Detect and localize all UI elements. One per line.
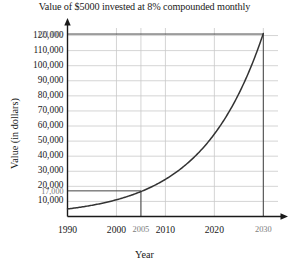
y-tick-label: 110,000 (0, 46, 64, 55)
x-axis-title: Year (0, 249, 289, 260)
axes (64, 18, 288, 220)
y-tick-label: 100,000 (0, 61, 64, 70)
x-tick-label: 1990 (48, 225, 88, 235)
gridlines (68, 28, 279, 217)
y-axis-arrow (64, 18, 70, 26)
y-tick-label: 121,000 (0, 30, 64, 39)
y-tick-label: 10,000 (0, 196, 64, 205)
x-tick-label: 2030 (243, 225, 283, 235)
x-axis-arrow (281, 213, 289, 219)
chart-container: Value of $5000 invested at 8% compounded… (0, 0, 289, 268)
x-tick-label: 2010 (145, 225, 185, 235)
x-tick-label: 2020 (194, 225, 234, 235)
y-axis-title: Value (in dollars) (9, 74, 20, 194)
